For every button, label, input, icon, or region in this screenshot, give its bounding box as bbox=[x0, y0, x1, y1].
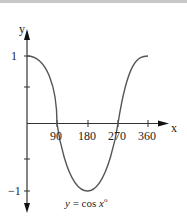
caption-eq: = cos bbox=[70, 197, 99, 209]
function-caption: y = cos xo bbox=[64, 196, 108, 209]
x-tick-label-270: 270 bbox=[108, 129, 126, 143]
caption-degree: o bbox=[104, 196, 108, 204]
x-tick-label-90: 90 bbox=[50, 129, 62, 143]
y-axis-down-arrow-icon bbox=[24, 203, 30, 213]
cosine-chart: y 1 −1 x 90 180 270 360 y = cos xo bbox=[0, 0, 187, 223]
y-tick-label-1: 1 bbox=[11, 49, 17, 63]
y-axis-label: y bbox=[19, 22, 25, 36]
x-axis bbox=[27, 120, 169, 127]
y-tick-label-neg1: −1 bbox=[8, 184, 21, 198]
x-axis-label: x bbox=[171, 121, 177, 135]
x-tick-label-360: 360 bbox=[138, 129, 156, 143]
x-axis-arrow-icon bbox=[158, 121, 169, 127]
x-tick-label-180: 180 bbox=[78, 129, 96, 143]
